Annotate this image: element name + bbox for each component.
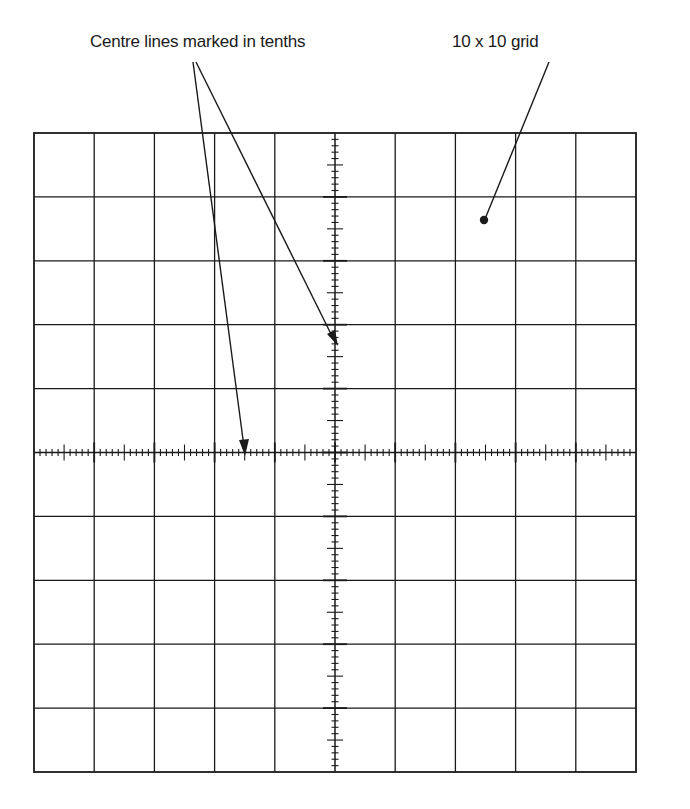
dot-marker-icon [480, 216, 488, 224]
pointer-to-vertical-centre-line [196, 62, 333, 338]
graticule-diagram [0, 0, 690, 809]
pointer-to-grid-square [485, 62, 549, 219]
pointer-lines [193, 62, 549, 456]
arrowhead-icon [239, 439, 249, 456]
